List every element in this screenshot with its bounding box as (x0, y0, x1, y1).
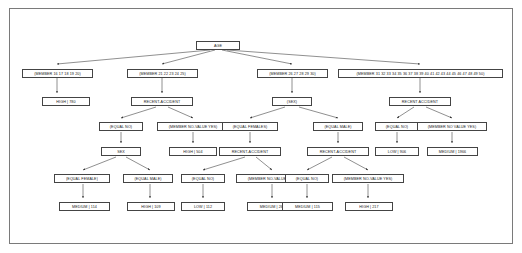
tree-node-label: (SEX) (287, 97, 297, 106)
tree-node-label: (EQUAL NO) (386, 122, 408, 131)
tree-node-label: (MEMBER 31 32 33 34 35 36 37 38 39 40 41… (357, 69, 485, 78)
tree-node-recent-accident-c[interactable]: RECENT-ACCIDENT (219, 147, 281, 156)
screenshot-canvas: AGE (MEMBER 16 17 18 19 20) (MEMBER 21 2… (0, 0, 522, 253)
tree-node-label: HIGH | 780 (56, 97, 75, 106)
tree-leaf-high-780[interactable]: HIGH | 780 (42, 97, 90, 106)
tree-node-label: RECENT-ACCIDENT (232, 147, 269, 156)
tree-node-label: RECENT-ACCIDENT (320, 147, 357, 156)
tree-node-label: (EQUAL FEMALE) (66, 174, 98, 183)
tree-node-equal-female[interactable]: (EQUAL FEMALE) (54, 174, 110, 183)
tree-leaf-high-217[interactable]: HIGH | 217 (345, 202, 393, 211)
tree-leaf-medium-114[interactable]: MEDIUM | 114 (59, 202, 110, 211)
tree-node-equal-male-1[interactable]: (EQUAL MALE) (313, 122, 363, 131)
decision-tree: AGE (MEMBER 16 17 18 19 20) (MEMBER 21 2… (0, 0, 522, 253)
tree-node-label: HIGH | 217 (359, 202, 378, 211)
tree-node-age-31-50[interactable]: (MEMBER 31 32 33 34 35 36 37 38 39 40 41… (338, 69, 503, 78)
tree-node-label: (MEMBER 16 17 18 19 20) (34, 69, 81, 78)
tree-node-age-21-25[interactable]: (MEMBER 21 22 23 24 25) (127, 69, 198, 78)
tree-node-label: (EQUAL NO) (192, 174, 214, 183)
tree-node-equal-no-3[interactable]: (EQUAL NO) (181, 174, 225, 183)
tree-leaf-high-109[interactable]: HIGH | 109 (127, 202, 175, 211)
tree-node-label: MEDIUM | 115 (295, 202, 320, 211)
tree-node-label: (EQUAL MALE) (324, 122, 351, 131)
tree-node-label: (EQUAL NO) (296, 174, 318, 183)
tree-node-equal-no-4[interactable]: (EQUAL NO) (285, 174, 329, 183)
tree-node-age-26-30[interactable]: (MEMBER 26 27 28 29 30) (257, 69, 328, 78)
tree-leaf-medium-1966[interactable]: MEDIUM | 1966 (427, 147, 478, 156)
tree-node-label: SEX (117, 147, 125, 156)
tree-leaf-medium-115[interactable]: MEDIUM | 115 (282, 202, 333, 211)
tree-node-label: MEDIUM | 114 (72, 202, 97, 211)
tree-node-label: RECENT ACCIDENT (402, 97, 438, 106)
tree-node-sex-a[interactable]: (SEX) (272, 97, 312, 106)
tree-leaf-low-906[interactable]: LOW | 906 (375, 147, 419, 156)
tree-node-sex-b[interactable]: SEX (101, 147, 141, 156)
tree-leaf-high-504[interactable]: HIGH | 504 (169, 147, 217, 156)
tree-node-label: (MEMBER NO-VALUE YES) (169, 122, 218, 131)
tree-node-label: HIGH | 109 (141, 202, 160, 211)
tree-node-root[interactable]: AGE (196, 41, 240, 50)
tree-node-label: (MEMBER NO VALUE YES) (428, 122, 476, 131)
tree-node-label: (MEMBER 26 27 28 29 30) (269, 69, 316, 78)
tree-node-label: (MEMBER NO-VALUE YES) (344, 174, 393, 183)
tree-node-recent-accident-d[interactable]: RECENT-ACCIDENT (307, 147, 369, 156)
tree-node-age-16-20[interactable]: (MEMBER 16 17 18 19 20) (22, 69, 93, 78)
tree-node-member-no-value-yes-2[interactable]: (MEMBER NO VALUE YES) (417, 122, 487, 131)
tree-node-equal-no-1[interactable]: (EQUAL NO) (99, 122, 143, 131)
tree-node-equal-females[interactable]: (EQUAL FEMALES) (222, 122, 278, 131)
tree-node-member-no-value-yes-1[interactable]: (MEMBER NO-VALUE YES) (157, 122, 229, 131)
tree-node-label: LOW | 112 (194, 202, 212, 211)
tree-node-label: (MEMBER 21 22 23 24 25) (139, 69, 186, 78)
tree-node-recent-accident-b[interactable]: RECENT ACCIDENT (389, 97, 451, 106)
tree-node-equal-no-2[interactable]: (EQUAL NO) (375, 122, 419, 131)
tree-node-label: HIGH | 504 (183, 147, 202, 156)
tree-node-label: LOW | 906 (388, 147, 406, 156)
tree-node-equal-male-2[interactable]: (EQUAL MALE) (123, 174, 173, 183)
tree-node-label: (EQUAL MALE) (134, 174, 161, 183)
tree-node-label: MEDIUM | 1966 (439, 147, 466, 156)
tree-node-member-no-value-yes-4[interactable]: (MEMBER NO-VALUE YES) (332, 174, 404, 183)
tree-node-label: (EQUAL NO) (110, 122, 132, 131)
tree-leaf-low-112[interactable]: LOW | 112 (181, 202, 225, 211)
tree-node-recent-accident-a[interactable]: RECENT-ACCIDENT (131, 97, 193, 106)
tree-node-label: RECENT-ACCIDENT (144, 97, 181, 106)
tree-node-label: AGE (214, 41, 222, 50)
tree-node-label: (EQUAL FEMALES) (233, 122, 268, 131)
